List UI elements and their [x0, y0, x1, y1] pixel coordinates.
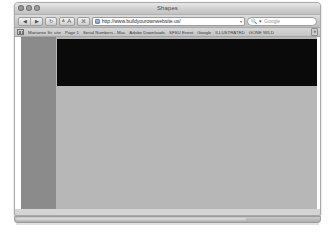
favicon-icon — [95, 19, 100, 24]
search-icon[interactable]: 🔍 — [251, 19, 257, 24]
back-button[interactable]: ◀ — [19, 18, 30, 25]
web-page — [21, 37, 317, 209]
scrollbar-thumb[interactable] — [16, 218, 246, 221]
bookmark-item[interactable]: Marianne Sr. site — [28, 29, 61, 36]
window-title: Shapes — [15, 4, 320, 13]
address-bar[interactable]: http://www.buildyourownwebsite.us/ ▾ — [92, 17, 245, 26]
bookmarks-grid-icon[interactable] — [17, 29, 24, 35]
reload-button[interactable]: ↻ — [45, 17, 57, 26]
address-bar-url: http://www.buildyourownwebsite.us/ — [102, 17, 181, 25]
page-viewport — [15, 37, 320, 209]
bookmark-item[interactable]: Google — [197, 29, 211, 36]
forward-button[interactable]: ▶ — [30, 18, 42, 25]
extra-toolbar-button[interactable]: ⌘ — [77, 17, 90, 26]
horizontal-scrollbar[interactable] — [14, 216, 321, 223]
search-placeholder: Google — [264, 17, 280, 25]
bookmarks-bar: Marianne Sr. site Page 1 Serial Numbers … — [15, 28, 320, 37]
text-size-large-label: A — [67, 18, 72, 24]
browser-window: Shapes ◀ ▶ ↻ A A ⌘ http://www.buildyouro… — [14, 2, 321, 216]
nav-buttons: ◀ ▶ — [18, 17, 43, 26]
bookmark-item[interactable]: Adobe Downloads — [129, 29, 165, 36]
search-dropdown-icon[interactable]: ▾ — [259, 19, 262, 24]
bookmark-item[interactable]: Serial Numbers - Mac — [83, 29, 125, 36]
page-sidebar-column — [21, 37, 56, 209]
text-size-button[interactable]: A A — [59, 17, 75, 26]
bookmark-item[interactable]: ILLUSTRATED — [215, 29, 244, 36]
screenshot-root: Shapes ◀ ▶ ↻ A A ⌘ http://www.buildyouro… — [0, 0, 335, 240]
bookmark-item[interactable]: SFSU Event — [169, 29, 193, 36]
search-field[interactable]: 🔍 ▾ Google — [247, 17, 317, 26]
address-bar-dropdown-icon[interactable]: ▾ — [240, 19, 242, 24]
window-drop-shadow — [16, 223, 319, 225]
window-titlebar[interactable]: Shapes — [15, 3, 320, 15]
text-size-small-label: A — [62, 19, 65, 23]
bookmarks-overflow-button[interactable]: » — [311, 28, 318, 36]
bookmark-item[interactable]: GONE WILD — [249, 29, 274, 36]
browser-toolbar: ◀ ▶ ↻ A A ⌘ http://www.buildyourownwebsi… — [15, 15, 320, 28]
bookmark-item[interactable]: Page 1 — [65, 29, 79, 36]
page-banner-block — [57, 39, 317, 86]
